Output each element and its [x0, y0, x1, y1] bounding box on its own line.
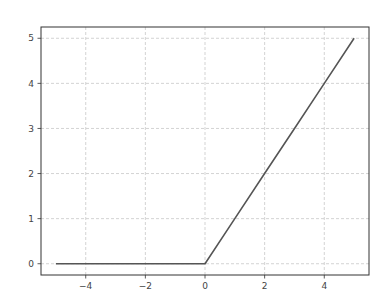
x-tick-label: 4: [321, 281, 327, 291]
y-tick-label: 0: [28, 259, 34, 269]
x-tick-label: 2: [262, 281, 268, 291]
x-axis-ticks: −4−2024: [79, 275, 327, 291]
y-tick-label: 2: [28, 169, 34, 179]
x-tick-label: 0: [202, 281, 208, 291]
relu-chart: −4−2024 012345: [0, 0, 386, 303]
x-tick-label: −2: [139, 281, 152, 291]
x-tick-label: −4: [79, 281, 93, 291]
y-tick-label: 1: [28, 214, 34, 224]
y-axis-ticks: 012345: [28, 33, 41, 268]
y-tick-label: 4: [28, 79, 34, 89]
grid-lines: [41, 27, 369, 275]
y-tick-label: 5: [28, 33, 34, 43]
y-tick-label: 3: [28, 124, 34, 134]
